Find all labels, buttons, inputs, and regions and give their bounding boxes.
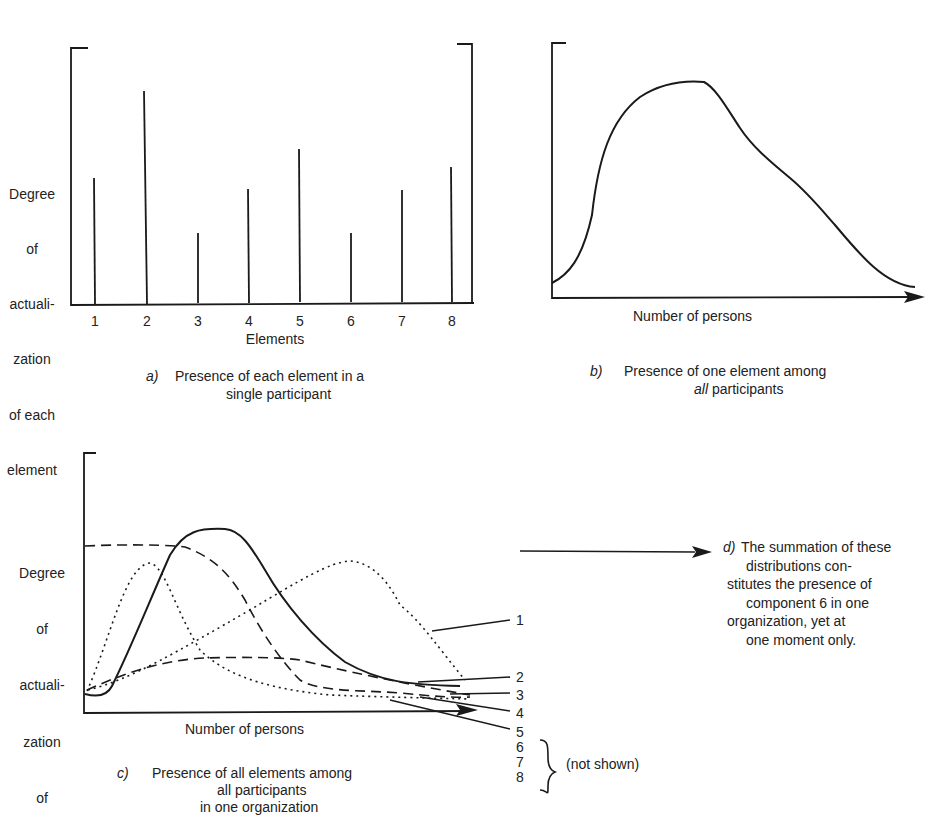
panel-d-line2: distributions con- xyxy=(746,557,852,575)
brace-not-shown xyxy=(540,740,555,793)
caption-italic: all xyxy=(694,381,708,397)
panel-d-line6: one moment only. xyxy=(746,631,856,649)
x-tick-8: 8 xyxy=(442,312,462,330)
panel-a-caption-letter: a) xyxy=(146,367,158,385)
panel-b-axes xyxy=(552,43,918,298)
curve-label-3: 3 xyxy=(516,686,524,704)
panel-b-xlabel: Number of persons xyxy=(633,307,752,325)
panel-d-letter: d) xyxy=(723,538,735,556)
panel-a-caption-line2: single participant xyxy=(226,385,331,403)
curve-label-7: 7 xyxy=(516,755,524,770)
x-tick-6: 6 xyxy=(341,312,361,330)
panel-d-line3: stitutes the presence of xyxy=(727,575,872,593)
ylabel-line: zation xyxy=(0,350,64,368)
x-tick-4: 4 xyxy=(239,312,259,330)
figure-canvas xyxy=(0,0,952,815)
panel-a-xlabel: Elements xyxy=(225,330,325,348)
panel-a-bars xyxy=(94,91,452,304)
ylabel-line: actuali- xyxy=(0,295,64,313)
x-tick-5: 5 xyxy=(290,312,310,330)
curve-leader-lines xyxy=(390,620,510,729)
ylabel-line: of xyxy=(0,620,84,639)
ylabel-line: actuali- xyxy=(0,676,84,695)
panel-a-caption-line1: Presence of each element in a xyxy=(175,367,364,385)
panel-c-xlabel: Number of persons xyxy=(185,720,304,738)
panel-b-caption-letter: b) xyxy=(590,362,602,380)
x-tick-1: 1 xyxy=(85,312,105,330)
panel-b-caption-line1: Presence of one element among xyxy=(624,362,826,380)
x-tick-3: 3 xyxy=(188,312,208,330)
ylabel-line: of each xyxy=(0,406,64,424)
x-tick-7: 7 xyxy=(392,312,412,330)
curve-label-1: 1 xyxy=(516,611,524,629)
panel-a-ylabel: Degree of actuali- zation of each elemen… xyxy=(0,148,64,498)
ylabel-line: of xyxy=(0,240,64,258)
ylabel-line: of xyxy=(0,789,84,808)
panel-b-curve xyxy=(552,82,915,287)
caption-rest: participants xyxy=(708,381,783,397)
ylabel-line: element xyxy=(0,461,64,479)
ylabel-line: Degree xyxy=(0,185,64,203)
curve-label-6: 6 xyxy=(516,740,524,755)
panel-d-line4: component 6 in one xyxy=(746,594,869,612)
ylabel-line: zation xyxy=(0,733,84,752)
panel-d-line5: organization, yet at xyxy=(727,612,845,630)
panel-c-axes xyxy=(84,453,470,713)
panel-c-caption-letter: c) xyxy=(117,764,129,782)
panel-c-caption-line3: in one organization xyxy=(200,798,318,815)
curve-label-4: 4 xyxy=(516,704,524,722)
panel-b-caption-line2: all participants xyxy=(694,380,784,398)
panel-c-caption-line1: Presence of all elements among xyxy=(152,764,352,782)
panel-d-line1: The summation of these xyxy=(741,538,891,556)
curve-label-8: 8 xyxy=(516,770,524,785)
ylabel-line: Degree xyxy=(0,564,84,583)
curve-label-2: 2 xyxy=(516,668,524,686)
panel-c-caption-line2: all participants xyxy=(217,781,307,799)
panel-a-axes xyxy=(71,44,474,305)
panel-c-ylabel: Degree of actuali- zation of each elemen… xyxy=(0,526,84,815)
not-shown-label: (not shown) xyxy=(566,755,639,773)
panel-c-curves xyxy=(85,529,470,699)
x-tick-2: 2 xyxy=(137,312,157,330)
panel-d-arrow xyxy=(520,551,695,552)
